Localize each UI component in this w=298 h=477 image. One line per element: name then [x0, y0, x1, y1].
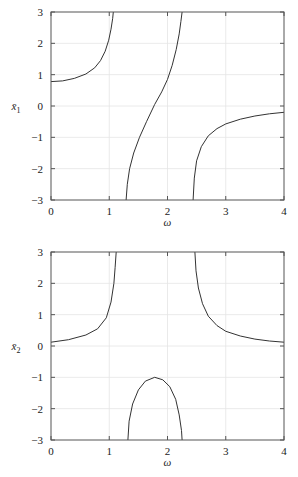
curve-branch-3 [193, 112, 284, 200]
y-tick-label: −3 [31, 434, 43, 446]
x-tick-label: 1 [107, 205, 113, 217]
x-tick-label: 1 [107, 445, 113, 457]
curve-branch-1 [51, 252, 116, 342]
ticks: 01234−3−2−10123 [31, 246, 287, 457]
x-tick-label: 3 [223, 445, 229, 457]
y-tick-label: 1 [38, 69, 44, 81]
y-tick-label: 1 [38, 309, 44, 321]
plot-x1-vs-omega: 01234−3−2−10123 ω x̄1 [11, 6, 288, 228]
y-axis-label: x̄1 [11, 100, 21, 115]
y-tick-label: 0 [38, 100, 44, 112]
grid-lines [51, 252, 284, 440]
y-tick-label: 0 [38, 340, 44, 352]
figure: 01234−3−2−10123 ω x̄1 01234−3−2−10123 ω … [0, 0, 298, 477]
curve-branch-1 [51, 12, 113, 82]
x-tick-label: 4 [281, 205, 287, 217]
y-tick-label: 2 [38, 277, 44, 289]
x-axis-label: ω [164, 216, 172, 228]
grid-lines [51, 12, 284, 200]
y-tick-label: 3 [38, 246, 44, 258]
y-tick-label: −2 [31, 403, 43, 415]
x-tick-label: 3 [223, 205, 229, 217]
x-tick-label: 4 [281, 445, 287, 457]
x-tick-label: 0 [48, 205, 54, 217]
x-axis-label: ω [164, 456, 172, 468]
y-tick-label: 3 [38, 6, 44, 18]
plot-x2-vs-omega: 01234−3−2−10123 ω x̄2 [11, 246, 288, 468]
y-axis-label: x̄2 [11, 340, 21, 355]
y-tick-label: −3 [31, 194, 43, 206]
x-tick-label: 0 [48, 445, 54, 457]
y-tick-label: −1 [31, 371, 43, 383]
y-tick-label: −1 [31, 131, 43, 143]
ticks: 01234−3−2−10123 [31, 6, 287, 217]
curve-branch-3 [195, 252, 284, 342]
y-tick-label: −2 [31, 163, 43, 175]
y-tick-label: 2 [38, 37, 44, 49]
